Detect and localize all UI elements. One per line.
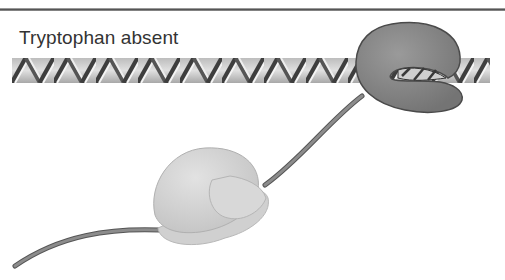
ribosome — [154, 148, 269, 245]
repressor-protein — [356, 23, 462, 113]
diagram-canvas — [0, 0, 505, 280]
